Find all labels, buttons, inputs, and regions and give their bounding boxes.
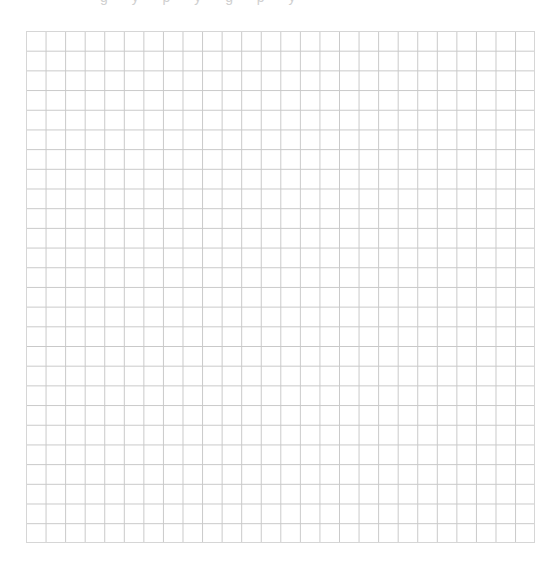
- clipped-header-text: g y p y g p y: [100, 0, 305, 4]
- graph-paper-grid: [26, 31, 535, 543]
